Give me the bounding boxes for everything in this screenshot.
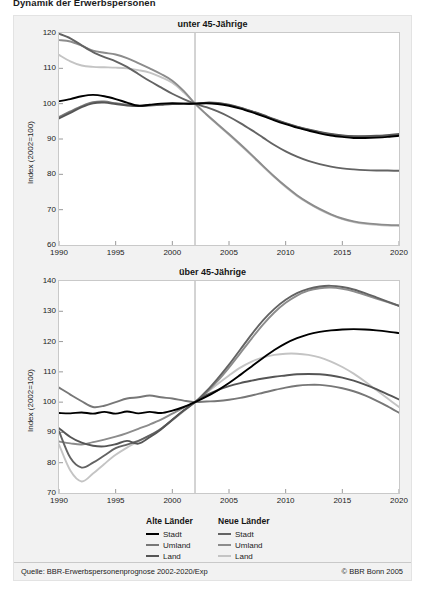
x-tick-label: 2005 — [209, 248, 249, 257]
x-tick-label: 2020 — [379, 496, 419, 505]
x-tick-label: 1990 — [39, 496, 79, 505]
legend-item-neue-stadt[interactable]: Stadt — [218, 529, 270, 539]
series-line — [59, 329, 399, 414]
legend-label-neue-land: Land — [235, 552, 253, 561]
series-line — [59, 374, 399, 446]
legend-label-alte-stadt: Stadt — [163, 530, 182, 539]
y-tick-label: 100 — [26, 397, 56, 406]
figure-container: unter 45-Jährige Index (2002=100) 607080… — [13, 15, 412, 581]
chart-title-over-45: über 45-Jährige — [14, 267, 411, 277]
series-line — [59, 385, 399, 413]
legend-group-neue-laender: Neue Länder Stadt Umland Land — [218, 516, 270, 562]
series-line — [59, 354, 399, 482]
x-tick-label: 1995 — [96, 496, 136, 505]
legend-heading-alte-laender: Alte Länder — [146, 516, 193, 526]
x-tick-label: 1990 — [39, 248, 79, 257]
source-note: Quelle: BBR-Erwerbspersonenprognose 2002… — [21, 567, 208, 576]
y-tick-label: 70 — [26, 205, 56, 214]
legend-item-neue-umland[interactable]: Umland — [218, 540, 270, 550]
figure-page: Dynamik der Erwerbspersonen unter 45-Jäh… — [0, 0, 423, 593]
series-line — [59, 286, 399, 468]
y-tick-label: 100 — [26, 99, 56, 108]
legend-item-neue-land[interactable]: Land — [218, 551, 270, 561]
legend-heading-neue-laender: Neue Länder — [218, 516, 270, 526]
plot-area-over-45 — [58, 280, 400, 494]
y-tick-label: 120 — [26, 337, 56, 346]
y-tick-label: 90 — [26, 427, 56, 436]
chart-panel-over-45: über 45-Jährige — [14, 264, 411, 512]
legend-swatch-alte-umland — [146, 544, 159, 547]
series-line — [59, 55, 399, 226]
legend-item-alte-umland[interactable]: Umland — [146, 540, 193, 550]
copyright-note: © BBR Bonn 2005 — [342, 567, 403, 576]
chart-legend: Alte Länder Stadt Umland Land Neue Lände… — [14, 516, 411, 561]
document-title: Dynamik der Erwerbspersonen — [13, 0, 156, 8]
x-tick-label: 2000 — [152, 496, 192, 505]
y-tick-label: 130 — [26, 306, 56, 315]
y-tick-label: 110 — [26, 63, 56, 72]
legend-swatch-neue-stadt — [218, 533, 231, 536]
chart-panel-under-45: unter 45-Jährige — [14, 16, 411, 264]
y-tick-label: 80 — [26, 458, 56, 467]
legend-label-alte-land: Land — [163, 552, 181, 561]
legend-label-neue-umland: Umland — [235, 541, 263, 550]
x-tick-label: 2005 — [209, 496, 249, 505]
legend-swatch-neue-land — [218, 555, 231, 558]
y-tick-label: 120 — [26, 28, 56, 37]
y-tick-label: 110 — [26, 367, 56, 376]
legend-group-alte-laender: Alte Länder Stadt Umland Land — [146, 516, 193, 562]
y-tick-label: 140 — [26, 276, 56, 285]
series-line — [59, 103, 399, 137]
x-tick-label: 2015 — [322, 496, 362, 505]
legend-swatch-alte-stadt — [146, 533, 159, 536]
y-tick-label: 80 — [26, 169, 56, 178]
x-tick-label: 2015 — [322, 248, 362, 257]
legend-label-neue-stadt: Stadt — [235, 530, 254, 539]
x-tick-label: 2010 — [266, 248, 306, 257]
legend-label-alte-umland: Umland — [163, 541, 191, 550]
legend-swatch-neue-umland — [218, 544, 231, 547]
figure-footer: Quelle: BBR-Erwerbspersonenprognose 2002… — [14, 562, 411, 580]
legend-item-alte-stadt[interactable]: Stadt — [146, 529, 193, 539]
legend-item-alte-land[interactable]: Land — [146, 551, 193, 561]
plot-svg-under-45 — [59, 33, 399, 245]
chart-title-under-45: unter 45-Jährige — [14, 19, 411, 29]
x-tick-label: 1995 — [96, 248, 136, 257]
legend-swatch-alte-land — [146, 555, 159, 558]
plot-area-under-45 — [58, 32, 400, 246]
x-tick-label: 2010 — [266, 496, 306, 505]
plot-svg-over-45 — [59, 281, 399, 493]
x-tick-label: 2000 — [152, 248, 192, 257]
x-tick-label: 2020 — [379, 248, 419, 257]
y-tick-label: 90 — [26, 134, 56, 143]
